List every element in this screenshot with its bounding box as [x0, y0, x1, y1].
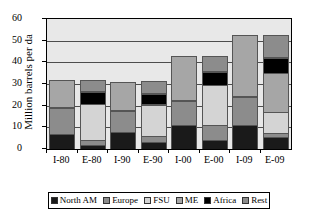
legend-swatch-icon	[103, 197, 110, 204]
y-tick-label-50: 50	[0, 35, 22, 45]
x-tick-mark-5	[199, 150, 200, 153]
bar-segment-north-am[interactable]	[80, 145, 106, 149]
bar-segment-me[interactable]	[49, 80, 75, 108]
bar-segment-fsu[interactable]	[263, 112, 289, 133]
bar-column-e-09[interactable]	[263, 35, 289, 149]
x-axis-tick-labels: I-80E-80I-90E-90I-00E-00I-09E-09	[46, 154, 292, 170]
legend-swatch-icon	[51, 197, 58, 204]
bar-segment-north-am[interactable]	[141, 142, 167, 149]
x-tick-mark-0	[46, 150, 47, 153]
bar-segment-north-am[interactable]	[110, 132, 136, 149]
legend-swatch-icon	[176, 197, 183, 204]
legend-swatch-icon	[242, 197, 249, 204]
bar-segment-north-am[interactable]	[263, 137, 289, 149]
y-tick-label-10: 10	[0, 121, 22, 131]
bar-segment-fsu[interactable]	[80, 104, 106, 141]
legend-item-europe[interactable]: Europe	[103, 196, 138, 205]
y-axis-title: Million barrels per da	[22, 7, 34, 157]
legend-label: FSU	[153, 196, 170, 205]
bar-segment-europe[interactable]	[49, 108, 75, 134]
bar-segment-rest[interactable]	[202, 56, 228, 72]
y-tick-label-0: 0	[0, 143, 22, 153]
bar-segment-europe[interactable]	[110, 111, 136, 132]
bar-segment-africa[interactable]	[80, 92, 106, 104]
legend-label: Africa	[213, 196, 236, 205]
bar-segment-europe[interactable]	[202, 125, 228, 140]
bar-segment-fsu[interactable]	[141, 105, 167, 136]
y-tick-label-60: 60	[0, 13, 22, 23]
y-tick-label-40: 40	[0, 56, 22, 66]
bar-segment-rest[interactable]	[263, 35, 289, 58]
y-tick-label-20: 20	[0, 100, 22, 110]
legend-swatch-icon	[144, 197, 151, 204]
legend-label: Rest	[251, 196, 267, 205]
legend-item-me[interactable]: ME	[176, 196, 199, 205]
bar-segment-north-am[interactable]	[171, 125, 197, 149]
bar-column-e-90[interactable]	[141, 81, 167, 149]
bar-segment-north-am[interactable]	[232, 125, 258, 149]
bar-column-i-80[interactable]	[49, 80, 75, 149]
bar-segment-me[interactable]	[232, 35, 258, 97]
x-tick-mark-3	[138, 150, 139, 153]
x-tick-label-e-09: E-09	[255, 154, 295, 165]
bar-segment-europe[interactable]	[171, 101, 197, 125]
x-tick-mark-7	[260, 150, 261, 153]
bar-segment-fsu[interactable]	[202, 85, 228, 125]
bar-segment-europe[interactable]	[232, 97, 258, 125]
bar-segment-north-am[interactable]	[49, 134, 75, 149]
bar-column-i-90[interactable]	[110, 82, 136, 149]
bar-column-e-00[interactable]	[202, 56, 228, 149]
bar-series-area	[47, 19, 291, 149]
stacked-bar-chart: Million barrels per da 6050403020100 I-8…	[0, 0, 318, 217]
legend-swatch-icon	[204, 197, 211, 204]
x-tick-mark-6	[229, 150, 230, 153]
legend-item-north-am[interactable]: North AM	[51, 196, 97, 205]
chart-legend: North AMEuropeFSUMEAfricaRest	[48, 192, 270, 209]
bar-segment-me[interactable]	[263, 73, 289, 112]
bar-column-i-00[interactable]	[171, 56, 197, 149]
bar-segment-africa[interactable]	[202, 72, 228, 85]
bar-segment-africa[interactable]	[263, 58, 289, 73]
legend-label: North AM	[60, 196, 97, 205]
legend-label: ME	[185, 196, 199, 205]
bar-segment-me[interactable]	[110, 82, 136, 111]
x-tick-mark-1	[77, 150, 78, 153]
legend-item-fsu[interactable]: FSU	[144, 196, 170, 205]
bar-column-e-80[interactable]	[80, 80, 106, 149]
bar-column-i-09[interactable]	[232, 35, 258, 149]
bar-segment-north-am[interactable]	[202, 140, 228, 149]
legend-item-africa[interactable]: Africa	[204, 196, 236, 205]
bar-segment-africa[interactable]	[141, 94, 167, 104]
x-tick-mark-2	[107, 150, 108, 153]
bar-segment-me[interactable]	[171, 56, 197, 102]
legend-label: Europe	[112, 196, 138, 205]
y-tick-label-30: 30	[0, 78, 22, 88]
x-tick-mark-4	[168, 150, 169, 153]
bar-segment-rest[interactable]	[141, 81, 167, 94]
bar-segment-rest[interactable]	[80, 80, 106, 92]
legend-item-rest[interactable]: Rest	[242, 196, 267, 205]
